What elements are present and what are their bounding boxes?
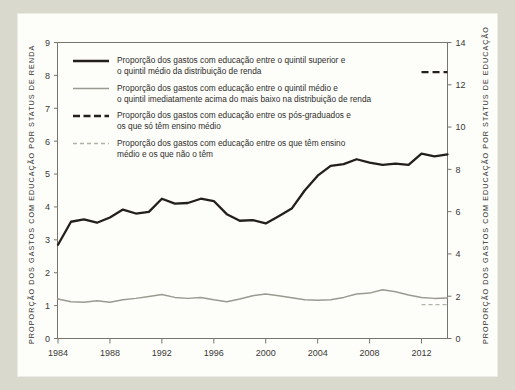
x-tick-label: 2008 bbox=[360, 348, 380, 358]
y-tick-label-right: 4 bbox=[456, 249, 461, 259]
y-tick-label-right: 2 bbox=[456, 292, 461, 302]
y-tick-label-right: 6 bbox=[456, 207, 461, 217]
y-axis-left-title: PROPORÇÃO DOS GASTOS COM EDUCAÇÃO POR ST… bbox=[27, 45, 36, 344]
x-tick-label: 1992 bbox=[152, 348, 172, 358]
x-tick-label: 2012 bbox=[412, 348, 432, 358]
y-tick-label: 7 bbox=[45, 104, 50, 114]
legend-label: Proporção dos gastos com educação entre … bbox=[117, 55, 346, 65]
y-axis-right-title: PROPORÇÃO DOS GASTOS COM EDUCAÇÃO POR ST… bbox=[481, 26, 490, 344]
y-tick-label: 1 bbox=[45, 301, 50, 311]
y-tick-label: 5 bbox=[45, 169, 50, 179]
y-tick-label-right: 0 bbox=[456, 334, 461, 344]
series-group bbox=[58, 72, 448, 305]
y-axis-left-ticks: 0123456789 bbox=[45, 38, 58, 344]
y-tick-label: 6 bbox=[45, 137, 50, 147]
y-tick-label-right: 10 bbox=[456, 122, 466, 132]
y-tick-label-right: 8 bbox=[456, 165, 461, 175]
series-line-quintil-superior-vs-medio bbox=[58, 154, 448, 245]
series-line-quintil-medio-vs-segundo bbox=[58, 290, 448, 302]
figure-panel: PROPORÇÃO DOS GASTOS COM EDUCAÇÃO POR ST… bbox=[18, 14, 497, 376]
y-tick-label: 0 bbox=[45, 334, 50, 344]
y-tick-label: 3 bbox=[45, 235, 50, 245]
y-tick-label: 2 bbox=[45, 268, 50, 278]
y-tick-label-right: 14 bbox=[456, 38, 466, 48]
y-tick-label: 8 bbox=[45, 71, 50, 81]
x-axis-ticks: 19841988199219962000200420082012 bbox=[48, 339, 432, 358]
y-tick-label: 9 bbox=[45, 38, 50, 48]
y-tick-label-right: 12 bbox=[456, 80, 466, 90]
chart-legend: Proporção dos gastos com educação entre … bbox=[73, 55, 372, 158]
y-tick-label: 4 bbox=[45, 202, 50, 212]
legend-label: médio e os que não o têm bbox=[117, 149, 213, 159]
legend-label: os que só têm ensino médio bbox=[117, 121, 221, 131]
x-tick-label: 1984 bbox=[48, 348, 68, 358]
legend-label: Proporção dos gastos com educação entre … bbox=[117, 138, 346, 148]
y-axis-right-ticks: 02468101214 bbox=[448, 38, 466, 344]
legend-label: Proporção dos gastos com educação entre … bbox=[117, 83, 338, 93]
legend-label: o quintil médio da distribuição de renda bbox=[117, 66, 262, 76]
x-tick-label: 2004 bbox=[308, 348, 328, 358]
legend-label: o quintil imediatamente acima do mais ba… bbox=[117, 94, 372, 104]
x-tick-label: 1996 bbox=[204, 348, 224, 358]
x-tick-label: 1988 bbox=[100, 348, 120, 358]
legend-label: Proporção dos gastos com educação entre … bbox=[117, 110, 351, 120]
chart-canvas: PROPORÇÃO DOS GASTOS COM EDUCAÇÃO POR ST… bbox=[18, 14, 497, 376]
x-tick-label: 2000 bbox=[256, 348, 276, 358]
